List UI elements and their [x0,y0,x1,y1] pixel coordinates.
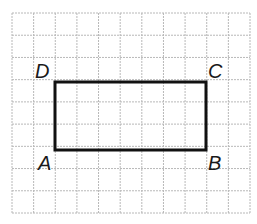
vertex-label-d: D [35,61,49,81]
rectangle-abcd [55,82,206,150]
grid [12,13,250,213]
grid-diagram [0,0,257,224]
vertex-label-c: C [208,61,222,81]
vertex-label-a: A [38,153,51,173]
vertex-label-b: B [208,153,221,173]
